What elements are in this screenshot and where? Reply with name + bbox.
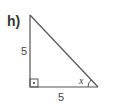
horizontal-leg-label: 5 <box>58 91 64 103</box>
hypotenuse <box>30 15 98 87</box>
right-triangle-diagram: 5 5 x <box>0 0 134 106</box>
right-angle-dot <box>33 82 35 84</box>
angle-x-label: x <box>78 75 84 86</box>
angle-arc <box>88 80 91 87</box>
vertical-leg-label: 5 <box>21 45 27 57</box>
